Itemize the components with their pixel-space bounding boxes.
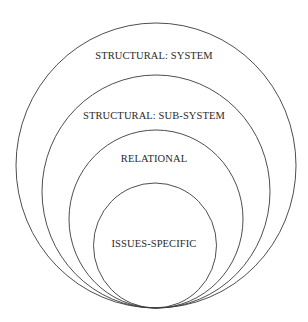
label-structural-sub-system: STRUCTURAL: SUB-SYSTEM bbox=[0, 110, 308, 121]
label-relational: RELATIONAL bbox=[0, 153, 308, 164]
label-structural-system: STRUCTURAL: SYSTEM bbox=[0, 50, 308, 61]
circle-structural-system bbox=[16, 23, 296, 308]
label-issues-specific: ISSUES-SPECIFIC bbox=[0, 238, 308, 249]
